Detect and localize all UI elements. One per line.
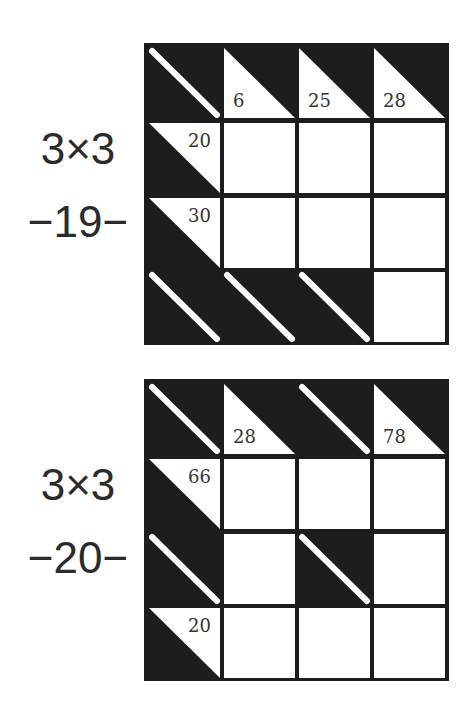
across-clue-cell: 66 <box>149 459 220 529</box>
answer-cell[interactable] <box>374 198 445 268</box>
block-cell <box>149 384 220 454</box>
diagonal-slash-icon <box>149 534 220 604</box>
puzzle-size-label: 3×3 <box>22 127 134 171</box>
puzzle-20: 3×3 −20− 28786620 <box>0 379 475 681</box>
across-clue-cell: 20 <box>149 123 220 193</box>
across-clue-cell: 30 <box>149 198 220 268</box>
down-clue-value: 28 <box>383 92 406 110</box>
block-cell <box>149 272 220 342</box>
down-clue-cell: 78 <box>374 384 445 454</box>
block-cell <box>299 534 370 604</box>
answer-cell[interactable] <box>299 459 370 529</box>
answer-cell[interactable] <box>224 198 295 268</box>
answer-cell[interactable] <box>374 123 445 193</box>
puzzle-19: 3×3 −19− 625282030 <box>0 43 475 345</box>
puzzle-size-label: 3×3 <box>22 463 134 507</box>
puzzle-number-label: −20− <box>22 536 134 580</box>
down-clue-cell: 28 <box>374 48 445 118</box>
down-clue-value: 78 <box>383 428 406 446</box>
down-clue-cell: 25 <box>299 48 370 118</box>
answer-cell[interactable] <box>224 123 295 193</box>
answer-cell[interactable] <box>299 123 370 193</box>
block-cell <box>149 534 220 604</box>
across-clue-value: 20 <box>188 617 211 635</box>
across-clue-value: 30 <box>188 207 211 225</box>
across-clue-cell: 20 <box>149 608 220 678</box>
kakuro-grid: 625282030 <box>144 43 449 345</box>
answer-cell[interactable] <box>224 459 295 529</box>
across-clue-value: 20 <box>188 132 211 150</box>
diagonal-slash-icon <box>224 272 295 342</box>
block-cell <box>149 48 220 118</box>
kakuro-grid: 28786620 <box>144 379 449 681</box>
down-clue-value: 25 <box>308 92 331 110</box>
diagonal-slash-icon <box>149 384 220 454</box>
block-cell <box>299 272 370 342</box>
answer-cell[interactable] <box>374 608 445 678</box>
across-clue-value: 66 <box>188 468 211 486</box>
answer-cell[interactable] <box>224 608 295 678</box>
down-clue-value: 6 <box>233 92 244 110</box>
diagonal-slash-icon <box>149 272 220 342</box>
answer-cell[interactable] <box>299 608 370 678</box>
diagonal-slash-icon <box>299 384 370 454</box>
answer-cell[interactable] <box>374 272 445 342</box>
down-clue-value: 28 <box>233 428 256 446</box>
down-clue-cell: 6 <box>224 48 295 118</box>
answer-cell[interactable] <box>224 534 295 604</box>
answer-cell[interactable] <box>299 198 370 268</box>
block-cell <box>224 272 295 342</box>
block-cell <box>299 384 370 454</box>
down-clue-cell: 28 <box>224 384 295 454</box>
answer-cell[interactable] <box>374 459 445 529</box>
diagonal-slash-icon <box>299 534 370 604</box>
puzzle-number-label: −19− <box>22 200 134 244</box>
diagonal-slash-icon <box>149 48 220 118</box>
answer-cell[interactable] <box>374 534 445 604</box>
diagonal-slash-icon <box>299 272 370 342</box>
